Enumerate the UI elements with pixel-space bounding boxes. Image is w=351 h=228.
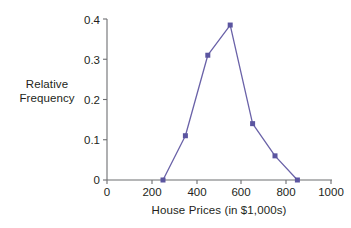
axes <box>107 19 332 180</box>
data-point-marker <box>295 178 300 183</box>
data-point-marker <box>161 178 166 183</box>
y-axis-ticks <box>103 19 107 180</box>
data-point-marker <box>228 23 233 28</box>
relative-frequency-polygon-chart: Relative Frequency House Prices (in $1,0… <box>0 0 351 228</box>
plot-area <box>0 0 351 228</box>
data-point-marker <box>205 53 210 58</box>
data-point-marker <box>250 121 255 126</box>
data-point-marker <box>273 153 278 158</box>
data-point-marker <box>183 133 188 138</box>
data-series-markers <box>161 23 300 183</box>
